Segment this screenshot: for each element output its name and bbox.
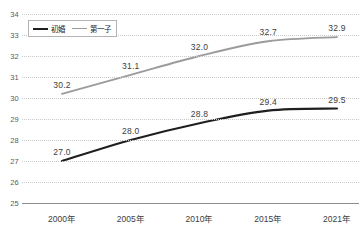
- data-point-label: 28.8: [191, 109, 208, 119]
- y-axis-tick-label: 29: [10, 115, 19, 124]
- data-point-label: 32.9: [328, 23, 345, 33]
- gridline: [22, 182, 359, 183]
- legend-swatch-first-marriage: [33, 28, 48, 30]
- data-point-label: 32.0: [191, 42, 208, 52]
- y-axis-tick-label: 34: [10, 10, 19, 19]
- y-axis-tick-label: 25: [10, 199, 19, 208]
- x-axis-tick-label: 2015年: [254, 212, 282, 224]
- gridline: [22, 161, 359, 162]
- x-axis-tick-label: 2010年: [186, 212, 214, 224]
- gridline: [22, 14, 359, 15]
- gridline: [22, 140, 359, 141]
- data-point-label: 30.2: [53, 80, 70, 90]
- gridline: [22, 77, 359, 78]
- x-axis-tick-label: 2000年: [48, 212, 76, 224]
- legend-label-first-marriage: 初婚: [51, 23, 65, 34]
- x-axis-tick-label: 2021年: [323, 212, 351, 224]
- gridline: [22, 56, 359, 57]
- y-axis-tick-label: 31: [10, 73, 19, 82]
- data-point-label: 28.0: [122, 126, 139, 136]
- data-point-label: 29.5: [328, 95, 345, 105]
- gridline: [22, 98, 359, 99]
- line-chart: 252627282930313233342000年2005年2010年2015年…: [0, 0, 363, 233]
- x-axis-line: [22, 203, 359, 204]
- legend-label-first-child: 第一子: [90, 23, 111, 34]
- data-point-label: 32.7: [260, 27, 277, 37]
- data-point-label: 29.4: [260, 97, 277, 107]
- data-point-label: 31.1: [122, 61, 139, 71]
- y-axis-tick-label: 26: [10, 178, 19, 187]
- x-axis-tick-label: 2005年: [117, 212, 145, 224]
- legend-swatch-first-child: [72, 28, 87, 29]
- plot-area: 252627282930313233342000年2005年2010年2015年…: [22, 14, 359, 203]
- legend-item-first-child: 第一子: [72, 23, 111, 34]
- y-axis-tick-label: 28: [10, 136, 19, 145]
- y-axis-tick-label: 33: [10, 31, 19, 40]
- y-axis-tick-label: 27: [10, 157, 19, 166]
- data-point-label: 27.0: [53, 147, 70, 157]
- chart-legend: 初婚 第一子: [28, 20, 117, 37]
- y-axis-tick-label: 30: [10, 94, 19, 103]
- legend-item-first-marriage: 初婚: [33, 23, 65, 34]
- y-axis-tick-label: 32: [10, 52, 19, 61]
